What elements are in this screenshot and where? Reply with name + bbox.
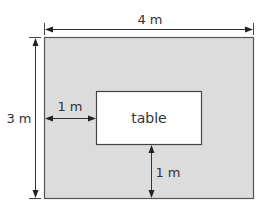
height-label: 3 m <box>6 111 31 126</box>
width-label: 4 m <box>137 12 162 27</box>
floor-plan-diagram: table 4 m 3 m 1 m 1 m <box>0 0 273 212</box>
table-label: table <box>131 110 166 126</box>
left-gap-label: 1 m <box>57 99 82 114</box>
bottom-gap-label: 1 m <box>155 165 180 180</box>
